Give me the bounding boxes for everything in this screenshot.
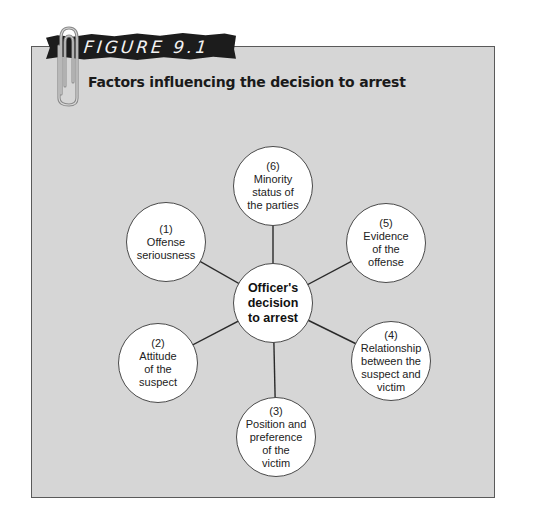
node-line: of the bbox=[372, 243, 400, 256]
node-line: Minority bbox=[254, 173, 293, 186]
node-line: of the bbox=[144, 363, 172, 376]
node-line: decision bbox=[248, 296, 299, 311]
node-line: Position and bbox=[246, 418, 307, 431]
node-line: between the bbox=[361, 355, 421, 368]
node-line: Evidence bbox=[363, 230, 408, 243]
factor-number: (5) bbox=[379, 217, 392, 230]
node-line: victim bbox=[262, 457, 290, 470]
node-line: Officer's bbox=[248, 281, 298, 296]
center-node-officers-decision-text: Officer'sdecisionto arrest bbox=[248, 281, 299, 326]
node-line: Attitude bbox=[139, 350, 176, 363]
node-line: victim bbox=[377, 381, 405, 394]
factor-node-position-preference-of-victim-text: (3)Position andpreferenceof thevictim bbox=[246, 405, 307, 470]
factor-node-minority-status-of-parties-text: (6)Minoritystatus ofthe parties bbox=[247, 160, 298, 212]
node-line: to arrest bbox=[248, 311, 298, 326]
factor-node-relationship-suspect-victim-text: (4)Relationshipbetween thesuspect andvic… bbox=[361, 329, 422, 394]
node-line: seriousness bbox=[137, 249, 196, 262]
factor-number: (1) bbox=[159, 223, 172, 236]
factor-node-minority-status-of-parties: (6)Minoritystatus ofthe parties bbox=[233, 146, 313, 226]
factor-number: (6) bbox=[266, 160, 279, 173]
node-line: Offense bbox=[147, 236, 185, 249]
node-line: suspect and bbox=[361, 368, 420, 381]
factor-number: (3) bbox=[269, 405, 282, 418]
factor-number: (4) bbox=[384, 329, 397, 342]
factor-number: (2) bbox=[151, 337, 164, 350]
center-node-officers-decision: Officer'sdecisionto arrest bbox=[233, 263, 313, 343]
factor-node-evidence-of-offense: (5)Evidenceof theoffense bbox=[346, 203, 426, 283]
node-line: status of bbox=[252, 186, 294, 199]
factor-node-attitude-of-suspect-text: (2)Attitudeof thesuspect bbox=[139, 337, 177, 389]
factor-node-attitude-of-suspect: (2)Attitudeof thesuspect bbox=[118, 323, 198, 403]
node-line: the parties bbox=[247, 199, 298, 212]
node-line: of the bbox=[262, 444, 290, 457]
factor-node-offense-seriousness: (1)Offenseseriousness bbox=[126, 202, 206, 282]
node-line: suspect bbox=[139, 376, 177, 389]
factor-node-evidence-of-offense-text: (5)Evidenceof theoffense bbox=[363, 217, 408, 269]
node-line: offense bbox=[368, 256, 404, 269]
factor-node-relationship-suspect-victim: (4)Relationshipbetween thesuspect andvic… bbox=[351, 321, 431, 401]
factor-node-offense-seriousness-text: (1)Offenseseriousness bbox=[137, 223, 196, 262]
node-line: preference bbox=[250, 431, 303, 444]
node-line: Relationship bbox=[361, 342, 422, 355]
factor-node-position-preference-of-victim: (3)Position andpreferenceof thevictim bbox=[236, 397, 316, 477]
